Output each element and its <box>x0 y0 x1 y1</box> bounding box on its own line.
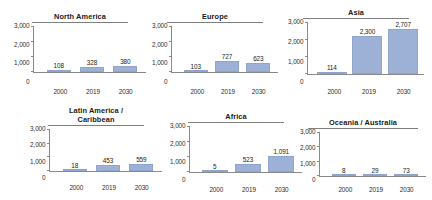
panel-title: Asia <box>288 8 424 18</box>
x-tick-label: 2030 <box>389 88 419 96</box>
axis-region: 18453559 <box>47 129 162 184</box>
y-tick-label: 1,000 <box>152 60 168 66</box>
y-tick-label: 0 <box>182 177 185 183</box>
x-tick-label: 2019 <box>216 88 240 96</box>
axis-region: 108328380 <box>31 26 146 88</box>
panel-title: North America <box>14 12 146 22</box>
y-axis-labels: 3,0002,0001,0000 <box>152 26 169 88</box>
x-tick-label: 2000 <box>319 88 349 96</box>
y-axis-labels: 3,0002,0001,0000 <box>288 22 305 88</box>
bar <box>246 63 270 72</box>
bar-value-label: 2,300 <box>360 28 376 35</box>
bar-group: 453 <box>96 129 120 171</box>
bar-group: 8 <box>332 132 356 176</box>
bar-group: 559 <box>129 129 153 171</box>
y-tick-label: 2,000 <box>14 42 30 48</box>
panel-title: Oceania / Australia <box>300 118 426 128</box>
bar-group: 1,091 <box>268 126 294 172</box>
x-tick-label: 2019 <box>354 88 384 96</box>
bar-value-label: 103 <box>190 63 200 70</box>
y-axis-labels: 3,0002,0001,0000 <box>14 26 31 88</box>
x-axis-line <box>319 176 426 177</box>
chart-panel: Latin America / Caribbean3,0002,0001,000… <box>30 106 162 192</box>
y-tick-label: 1,000 <box>14 60 30 66</box>
x-axis-labels: 200020192030 <box>152 88 278 96</box>
bar-group: 5 <box>202 126 228 172</box>
panel-title: Latin America / Caribbean <box>30 106 162 125</box>
x-axis-line <box>49 171 162 172</box>
title-underline <box>188 122 284 123</box>
x-tick-label: 2030 <box>269 186 295 194</box>
x-axis-line <box>189 172 302 173</box>
bar <box>268 156 294 172</box>
y-tick-label: 2,000 <box>152 42 168 48</box>
plot-area: 3,0002,0001,000055231,091 <box>170 126 302 186</box>
bar-value-label: 29 <box>372 167 379 174</box>
bar-group: 103 <box>184 26 208 72</box>
y-tick-label: 2,000 <box>288 39 304 45</box>
y-tick-label: 2,000 <box>170 141 186 147</box>
title-underline <box>303 18 409 19</box>
chart-panel: Europe3,0002,0001,0000103727623200020192… <box>152 12 278 96</box>
bar <box>388 29 418 74</box>
chart-panel: Asia3,0002,0001,00001142,3002,7072000201… <box>288 8 424 96</box>
y-tick-label: 3,000 <box>152 23 168 29</box>
bar-group: 108 <box>47 26 71 72</box>
title-underline <box>48 125 144 126</box>
x-tick-label: 2000 <box>64 184 88 192</box>
chart-panel: Oceania / Australia3,0002,0001,000082973… <box>300 118 426 194</box>
y-axis-labels: 3,0002,0001,0000 <box>300 132 317 186</box>
y-axis-labels: 3,0002,0001,0000 <box>170 126 187 186</box>
x-axis-line <box>307 74 424 75</box>
bar-group: 328 <box>80 26 104 72</box>
title-underline <box>32 22 128 23</box>
bar-series: 108328380 <box>34 26 146 72</box>
axis-region: 1142,3002,707 <box>305 22 424 88</box>
bar-group: 114 <box>317 22 347 74</box>
bar-value-label: 114 <box>327 64 337 71</box>
x-tick-label: 2019 <box>81 88 105 96</box>
bar-group: 18 <box>63 129 87 171</box>
bar-series: 103727623 <box>172 26 278 72</box>
x-tick-label: 2019 <box>97 184 121 192</box>
bar-value-label: 523 <box>243 156 253 163</box>
bar-series: 18453559 <box>50 129 162 171</box>
title-underline <box>308 128 418 129</box>
x-tick-label: 2000 <box>185 88 209 96</box>
x-tick-label: 2030 <box>130 184 154 192</box>
bar-value-label: 18 <box>71 162 78 169</box>
bar-value-label: 2,707 <box>395 21 411 28</box>
y-tick-label: 3,000 <box>14 23 30 29</box>
bar-group: 727 <box>215 26 239 72</box>
x-tick-label: 2030 <box>247 88 271 96</box>
y-tick-label: 0 <box>312 177 315 183</box>
x-tick-label: 2019 <box>364 186 388 194</box>
bar-value-label: 8 <box>342 167 345 174</box>
x-axis-labels: 200020192030 <box>288 88 424 96</box>
plot-area: 3,0002,0001,000082973 <box>300 132 426 186</box>
x-tick-label: 2030 <box>114 88 138 96</box>
title-underline <box>167 22 263 23</box>
x-axis-line <box>33 72 146 73</box>
y-tick-label: 1,000 <box>300 161 316 167</box>
y-tick-label: 3,000 <box>170 123 186 129</box>
axis-region: 82973 <box>317 132 426 186</box>
bar-value-label: 108 <box>53 62 63 69</box>
axis-region: 55231,091 <box>187 126 302 186</box>
y-tick-label: 1,000 <box>30 159 46 165</box>
bar-value-label: 1,091 <box>274 148 290 155</box>
bar-series: 1142,3002,707 <box>308 22 424 74</box>
bar <box>215 61 239 72</box>
y-tick-label: 1,000 <box>170 159 186 165</box>
y-tick-label: 3,000 <box>288 19 304 25</box>
plot-area: 3,0002,0001,0000103727623 <box>152 26 278 88</box>
x-axis-line <box>171 72 278 73</box>
panel-title: Europe <box>152 12 278 22</box>
y-tick-label: 2,000 <box>300 145 316 151</box>
chart-panel: North America3,0002,0001,000010832838020… <box>14 12 146 96</box>
y-tick-label: 3,000 <box>30 126 46 132</box>
bar <box>235 164 261 172</box>
bar-group: 2,707 <box>388 22 418 74</box>
bar-group: 623 <box>246 26 270 72</box>
bar-value-label: 5 <box>213 163 216 170</box>
